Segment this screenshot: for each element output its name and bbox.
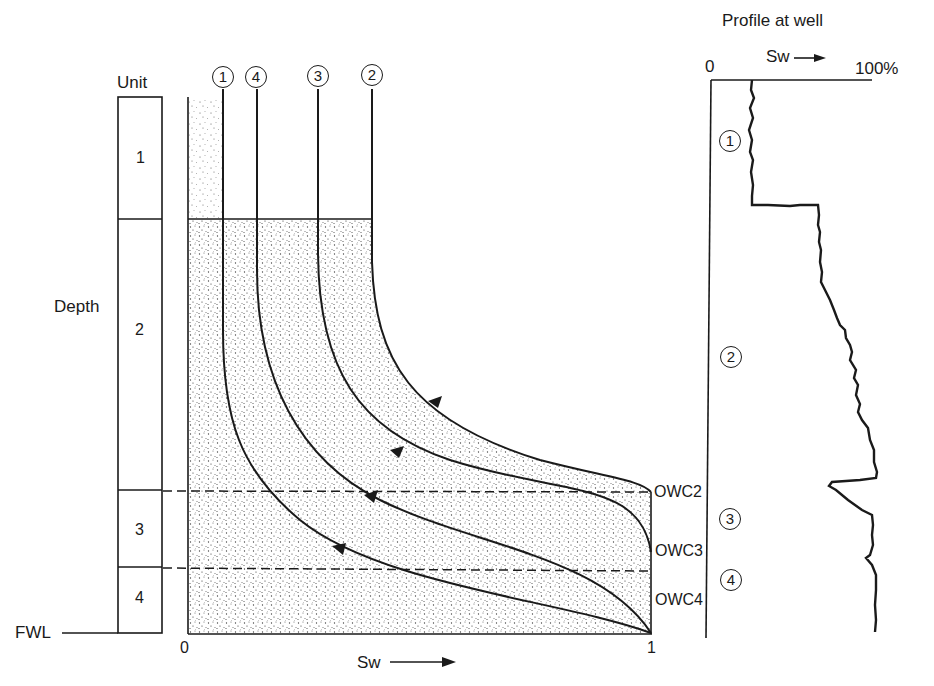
owc3-label: OWC3 [655, 543, 703, 559]
depth-label: Depth [54, 298, 99, 315]
main-x-axis-label: Sw [357, 654, 381, 671]
profile-unit-marker-4: 4 [720, 569, 742, 591]
unit-label-2: 2 [135, 322, 144, 338]
unit-label-3: 3 [135, 522, 144, 538]
curve-label-2: 2 [361, 64, 383, 86]
profile-x-axis-label: Sw [766, 48, 790, 65]
main-x-min: 0 [180, 640, 189, 656]
unit-header: Unit [117, 74, 147, 91]
sw-log-trace [749, 80, 877, 632]
arrow-right-icon [814, 54, 826, 62]
owc4-label: OWC4 [655, 592, 703, 608]
main-x-max: 1 [647, 640, 656, 656]
profile-unit-marker-1: 1 [719, 130, 741, 152]
profile-x-max: 100% [855, 60, 898, 77]
profile-unit-marker-3: 3 [719, 508, 741, 530]
curve-label-3: 3 [307, 65, 329, 87]
profile-x-min: 0 [705, 58, 714, 75]
unit-label-1: 1 [136, 150, 145, 166]
stippled-oil-zone [189, 97, 651, 633]
owc2-label: OWC2 [654, 484, 702, 500]
curve-label-4: 4 [245, 66, 267, 88]
profile-unit-marker-2: 2 [720, 346, 742, 368]
curve-label-1: 1 [212, 66, 234, 88]
profile-title: Profile at well [722, 12, 823, 29]
unit-column [62, 97, 162, 633]
unit-label-4: 4 [135, 590, 144, 606]
fwl-label: FWL [15, 624, 51, 641]
arrow-right-icon [442, 657, 456, 667]
capillary-pressure-diagram [0, 0, 934, 686]
